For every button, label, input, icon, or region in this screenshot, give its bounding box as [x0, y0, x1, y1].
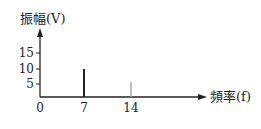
y-tick-label-15: 15 [14, 47, 34, 59]
y-tick-label-10: 10 [14, 63, 34, 75]
y-axis-arrow-icon [37, 28, 43, 37]
y-axis-label: 振幅(V) [20, 12, 66, 25]
x-axis-arrow-icon [198, 94, 207, 100]
x-tick-label-7: 7 [74, 102, 94, 114]
x-axis-label: 頻率(f) [210, 90, 251, 103]
x-tick-label-0: 0 [30, 102, 50, 114]
x-tick-label-14: 14 [121, 102, 141, 114]
y-tick-label-5: 5 [14, 78, 34, 90]
